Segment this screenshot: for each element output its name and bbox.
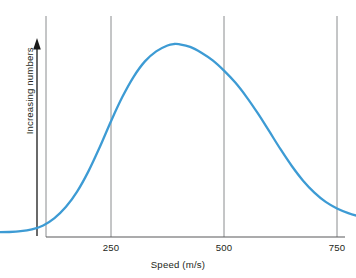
x-tick-label-250: 250 [89,243,133,253]
x-tick-label-500: 500 [202,243,246,253]
distribution-curve [0,44,356,232]
speed-distribution-figure: Increasing numbers 2505007501,000 Speed … [0,0,356,278]
x-tick-label-750: 750 [315,243,356,253]
x-axis-label: Speed (m/s) [0,260,356,270]
gridlines [46,16,356,237]
plot-area [0,0,356,278]
